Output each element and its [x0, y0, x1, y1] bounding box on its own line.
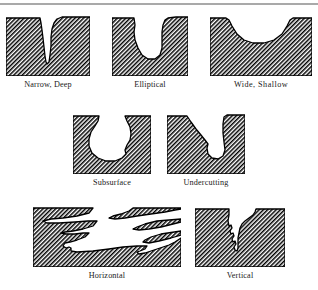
- caption-narrow-deep: Narrow, Deep: [24, 79, 72, 90]
- cell-wide-shallow: Wide, Shallow: [210, 14, 312, 90]
- figure-row-middle: Subsurface Undercutting: [0, 112, 318, 188]
- horizontal-diagram: [33, 205, 181, 267]
- vertical-diagram: [195, 205, 285, 267]
- cell-horizontal: Horizontal: [33, 205, 181, 281]
- cell-vertical: Vertical: [195, 205, 285, 281]
- corrosion-pit-figure: Narrow, Deep Elliptical Wide, Shallow Su…: [0, 0, 318, 290]
- caption-elliptical: Elliptical: [134, 79, 166, 90]
- wide-shallow-diagram: [210, 14, 312, 76]
- cell-elliptical: Elliptical: [112, 14, 188, 90]
- subsurface-diagram: [73, 112, 151, 174]
- figure-row-bottom: Horizontal Vertical: [0, 205, 318, 281]
- cell-subsurface: Subsurface: [73, 112, 151, 188]
- cell-narrow-deep: Narrow, Deep: [6, 14, 90, 90]
- undercutting-diagram: [167, 112, 245, 174]
- caption-horizontal: Horizontal: [89, 270, 126, 281]
- figure-row-top: Narrow, Deep Elliptical Wide, Shallow: [0, 14, 318, 90]
- cell-undercutting: Undercutting: [167, 112, 245, 188]
- caption-subsurface: Subsurface: [93, 177, 131, 188]
- caption-wide-shallow: Wide, Shallow: [234, 79, 288, 90]
- top-divider-rule: [0, 3, 318, 5]
- elliptical-diagram: [112, 14, 188, 76]
- caption-undercutting: Undercutting: [183, 177, 228, 188]
- caption-vertical: Vertical: [227, 270, 254, 281]
- narrow-deep-diagram: [6, 14, 90, 76]
